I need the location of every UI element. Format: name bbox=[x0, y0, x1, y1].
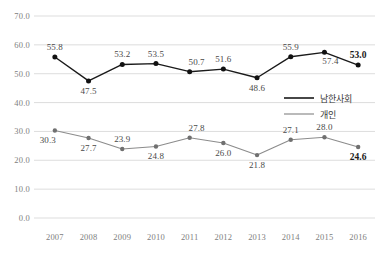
data-point bbox=[322, 135, 326, 139]
x-axis-tick-label: 2013 bbox=[240, 232, 274, 242]
data-label: 23.9 bbox=[111, 134, 133, 144]
legend-label-1: 남한사회 bbox=[320, 92, 352, 105]
data-point bbox=[221, 141, 225, 145]
data-point bbox=[322, 50, 327, 55]
line-chart: 70.060.050.040.030.020.010.00.0 20072008… bbox=[0, 0, 384, 260]
data-label: 27.1 bbox=[280, 125, 302, 135]
data-label: 24.6 bbox=[347, 152, 369, 162]
x-axis-tick-label: 2011 bbox=[173, 232, 207, 242]
data-label: 30.3 bbox=[37, 135, 59, 145]
data-label: 55.8 bbox=[44, 42, 66, 52]
data-point bbox=[154, 144, 158, 148]
y-axis-tick-label: 70.0 bbox=[0, 11, 30, 21]
data-label: 53.2 bbox=[111, 49, 133, 59]
legend-label-2: 개인 bbox=[320, 108, 336, 121]
data-label: 55.9 bbox=[280, 42, 302, 52]
y-axis-tick-label: 0.0 bbox=[0, 213, 30, 223]
data-point bbox=[289, 138, 293, 142]
data-point bbox=[86, 78, 91, 83]
data-point bbox=[356, 63, 361, 68]
series-line-2 bbox=[55, 131, 358, 156]
x-axis-tick-label: 2016 bbox=[341, 232, 375, 242]
x-axis-tick-label: 2007 bbox=[38, 232, 72, 242]
y-axis-tick-label: 50.0 bbox=[0, 69, 30, 79]
y-axis-tick-label: 20.0 bbox=[0, 155, 30, 165]
data-label: 53.0 bbox=[347, 50, 369, 60]
x-axis-tick-label: 2009 bbox=[105, 232, 139, 242]
data-point bbox=[288, 54, 293, 59]
x-axis-tick-label: 2008 bbox=[72, 232, 106, 242]
x-axis-tick-label: 2010 bbox=[139, 232, 173, 242]
data-label: 27.8 bbox=[186, 123, 208, 133]
data-point bbox=[120, 62, 125, 67]
data-point bbox=[120, 147, 124, 151]
x-axis-tick-label: 2014 bbox=[274, 232, 308, 242]
data-label: 51.6 bbox=[212, 54, 234, 64]
data-label: 50.7 bbox=[186, 57, 208, 67]
data-label: 53.5 bbox=[145, 49, 167, 59]
data-point bbox=[86, 136, 90, 140]
data-label: 57.4 bbox=[319, 56, 341, 66]
data-point bbox=[187, 69, 192, 74]
data-point bbox=[356, 145, 360, 149]
legend-swatches bbox=[284, 98, 314, 114]
y-axis-tick-label: 40.0 bbox=[0, 98, 30, 108]
series-lines bbox=[55, 52, 358, 155]
y-axis-tick-label: 30.0 bbox=[0, 126, 30, 136]
data-point bbox=[52, 54, 57, 59]
y-axis-tick-label: 10.0 bbox=[0, 184, 30, 194]
data-point bbox=[187, 136, 191, 140]
data-point bbox=[221, 67, 226, 72]
data-label: 48.6 bbox=[246, 83, 268, 93]
data-point bbox=[53, 128, 57, 132]
data-label: 47.5 bbox=[78, 86, 100, 96]
data-point bbox=[153, 61, 158, 66]
y-axis-tick-label: 60.0 bbox=[0, 40, 30, 50]
x-axis-tick-label: 2015 bbox=[307, 232, 341, 242]
data-label: 24.8 bbox=[145, 151, 167, 161]
data-label: 28.0 bbox=[313, 122, 335, 132]
data-point bbox=[255, 75, 260, 80]
x-axis-tick-label: 2012 bbox=[206, 232, 240, 242]
data-label: 27.7 bbox=[78, 143, 100, 153]
data-label: 21.8 bbox=[246, 160, 268, 170]
data-label: 26.0 bbox=[212, 148, 234, 158]
data-point bbox=[255, 153, 259, 157]
